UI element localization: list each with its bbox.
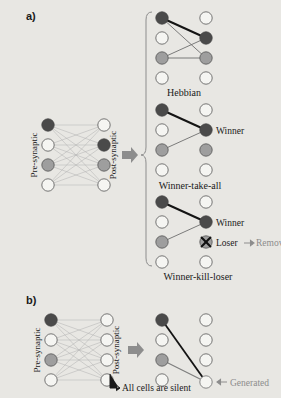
all-cells-silent-label: All cells are silent <box>122 383 191 393</box>
figure-background <box>0 0 281 398</box>
panel-b-pre-synaptic-label: Pre-synaptic <box>32 328 42 373</box>
panel-b-generated-node <box>200 376 212 388</box>
wkl-pre-node-1 <box>156 196 168 208</box>
hebbian-pre-node-3 <box>156 52 168 64</box>
panel-b-result-post-node-2 <box>200 334 212 346</box>
panel-a-post-node-1 <box>98 119 110 131</box>
hebbian-post-node-2 <box>200 32 212 44</box>
panel-b-pre-node-3 <box>45 354 57 366</box>
wkl-pre-node-2 <box>156 216 168 228</box>
winner-take-all-caption: Winner-take-all <box>159 180 222 191</box>
figure-root: a) <box>0 0 281 398</box>
hebbian-pre-node-4 <box>156 72 168 84</box>
panel-b-result-post-node-3 <box>200 354 212 366</box>
wta-post-node-winner <box>200 124 212 136</box>
wta-post-node-4 <box>200 164 212 176</box>
wkl-removed-label: Removed <box>256 238 281 248</box>
wta-post-node-1 <box>200 104 212 116</box>
panel-b-letter: b) <box>26 294 37 306</box>
neuroplasticity-diagram: a) <box>0 0 281 398</box>
wkl-pre-node-4 <box>156 256 168 268</box>
panel-b-result-pre-node-4 <box>156 374 168 386</box>
panel-a-pre-node-1 <box>42 119 54 131</box>
wkl-post-node-winner <box>200 216 212 228</box>
panel-b-result-pre-node-3 <box>156 354 168 366</box>
panel-b-result-pre-node-2 <box>156 334 168 346</box>
wta-pre-node-4 <box>156 164 168 176</box>
hebbian-caption: Hebbian <box>167 87 201 98</box>
wta-post-node-3 <box>200 144 212 156</box>
panel-a-pre-node-4 <box>42 179 54 191</box>
panel-b-post-synaptic-label: Post-synaptic <box>111 326 121 375</box>
panel-b-pre-node-2 <box>45 334 57 346</box>
panel-b-post-node-1 <box>101 314 113 326</box>
winner-kill-loser-caption: Winner-kill-loser <box>164 271 233 282</box>
panel-a-letter: a) <box>26 10 36 22</box>
wkl-post-node-1 <box>200 196 212 208</box>
panel-b-pre-node-4 <box>45 374 57 386</box>
panel-b-result-pre-node-1 <box>156 314 168 326</box>
wkl-loser-label: Loser <box>216 238 238 248</box>
panel-a-post-synaptic-label: Post-synaptic <box>108 131 118 180</box>
hebbian-post-node-3 <box>200 52 212 64</box>
panel-a-post-node-4 <box>98 179 110 191</box>
panel-a-pre-node-3 <box>42 159 54 171</box>
wkl-pre-node-3 <box>156 236 168 248</box>
panel-a-pre-synaptic-label: Pre-synaptic <box>29 133 39 178</box>
wkl-post-node-4 <box>200 256 212 268</box>
hebbian-post-node-1 <box>200 12 212 24</box>
wta-pre-node-3 <box>156 144 168 156</box>
generated-label: Generated <box>230 378 269 388</box>
panel-b-pre-node-1 <box>45 314 57 326</box>
panel-a-pre-node-2 <box>42 139 54 151</box>
panel-b-result-post-node-1 <box>200 314 212 326</box>
wta-winner-label: Winner <box>216 126 245 136</box>
wkl-winner-label: Winner <box>216 218 245 228</box>
hebbian-post-node-4 <box>200 72 212 84</box>
wta-pre-node-1 <box>156 104 168 116</box>
hebbian-pre-node-2 <box>156 32 168 44</box>
hebbian-pre-node-1 <box>156 12 168 24</box>
wta-pre-node-2 <box>156 124 168 136</box>
